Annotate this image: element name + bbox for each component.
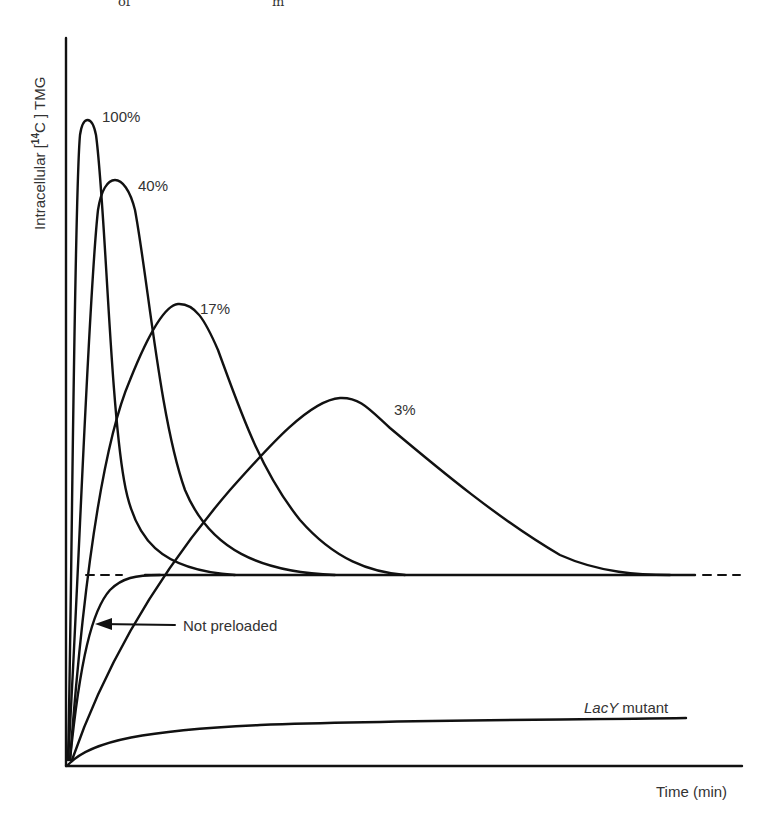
label-40-percent: 40% [138,177,168,194]
label-lacy-mutant: LacY mutant [584,699,668,716]
x-axis-label: Time (min) [656,783,727,800]
label-not-preloaded: Not preloaded [183,617,277,634]
curve-17-percent [70,304,405,760]
curve-lacy-mutant [68,718,686,765]
label-100-percent: 100% [102,108,140,125]
label-3-percent: 3% [394,401,416,418]
curve-100-percent [68,120,235,760]
arrowhead-icon [95,618,112,630]
label-17-percent: 17% [200,300,230,317]
curve-3-percent [72,398,670,760]
